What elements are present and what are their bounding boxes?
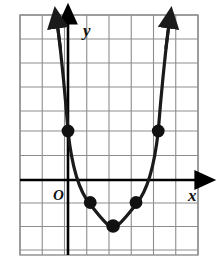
- x-axis-label: x: [187, 186, 197, 205]
- coordinate-plane-svg: y x O: [0, 0, 217, 266]
- y-axis-label: y: [81, 21, 91, 40]
- data-point-vertex: [106, 219, 120, 233]
- data-point: [62, 125, 75, 138]
- origin-label: O: [53, 187, 64, 203]
- data-point: [152, 125, 165, 138]
- graph-figure: y x O: [0, 0, 217, 266]
- data-point: [84, 196, 97, 209]
- data-point: [130, 196, 143, 209]
